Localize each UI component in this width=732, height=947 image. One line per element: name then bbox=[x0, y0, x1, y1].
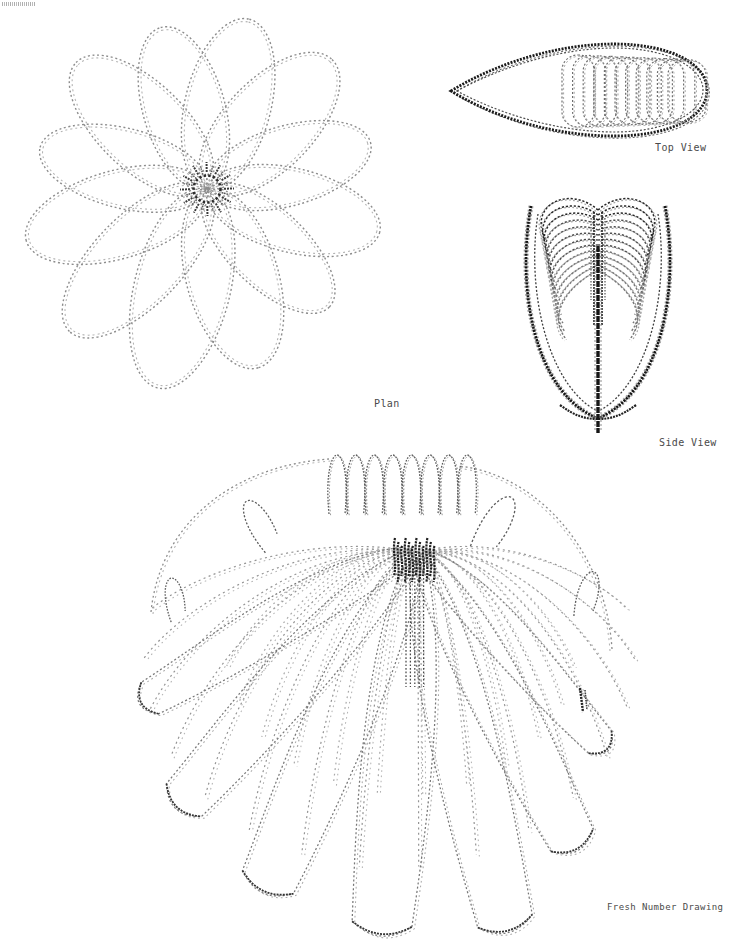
iso-view-label: Fresh Number Drawing bbox=[607, 902, 723, 912]
plan-label: Plan bbox=[374, 398, 400, 409]
iso-figure bbox=[138, 455, 638, 938]
drawing-canvas bbox=[0, 0, 732, 947]
drawing-sheet: Plan Top View Side View Fresh Number Dra… bbox=[0, 0, 732, 947]
side-view-label: Side View bbox=[659, 437, 717, 448]
top-view-label: Top View bbox=[655, 142, 706, 153]
plan-figure bbox=[14, 9, 390, 400]
side-view-figure bbox=[526, 199, 670, 433]
top-view-figure bbox=[451, 44, 709, 138]
